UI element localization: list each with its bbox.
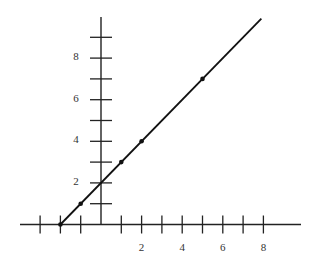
function-line xyxy=(60,19,261,225)
x-tick-label: 6 xyxy=(220,241,226,253)
x-tick-label: 8 xyxy=(261,241,267,253)
line-chart: 24682468 xyxy=(0,0,320,262)
data-point xyxy=(200,77,205,82)
data-series xyxy=(58,19,261,227)
tick-labels: 24682468 xyxy=(73,50,266,252)
x-tick-label: 2 xyxy=(139,241,145,253)
data-point xyxy=(58,222,63,227)
data-point xyxy=(78,201,83,206)
data-point xyxy=(139,139,144,144)
y-tick-label: 4 xyxy=(73,133,79,145)
y-tick-label: 6 xyxy=(73,92,79,104)
data-point xyxy=(119,160,124,165)
y-tick-label: 2 xyxy=(73,175,79,187)
y-tick-label: 8 xyxy=(73,50,79,62)
x-tick-label: 4 xyxy=(179,241,185,253)
